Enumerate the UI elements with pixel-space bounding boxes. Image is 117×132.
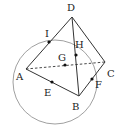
- label-E: E: [44, 87, 51, 98]
- label-B: B: [72, 101, 79, 112]
- label-A: A: [15, 71, 24, 82]
- label-H: H: [75, 39, 84, 50]
- diagram-canvas: D A B C I H G E F: [0, 0, 117, 132]
- label-D: D: [67, 2, 75, 13]
- label-I: I: [45, 28, 49, 39]
- point-E-dot: [50, 80, 53, 83]
- point-F-dot: [90, 77, 93, 80]
- circle: [13, 40, 97, 124]
- label-C: C: [107, 68, 115, 79]
- geometry-diagram: D A B C I H G E F: [0, 0, 117, 132]
- label-F: F: [95, 79, 102, 90]
- point-G-dot: [63, 63, 66, 66]
- point-H-dot: [74, 53, 77, 56]
- label-G: G: [58, 52, 66, 63]
- point-I-dot: [47, 40, 50, 43]
